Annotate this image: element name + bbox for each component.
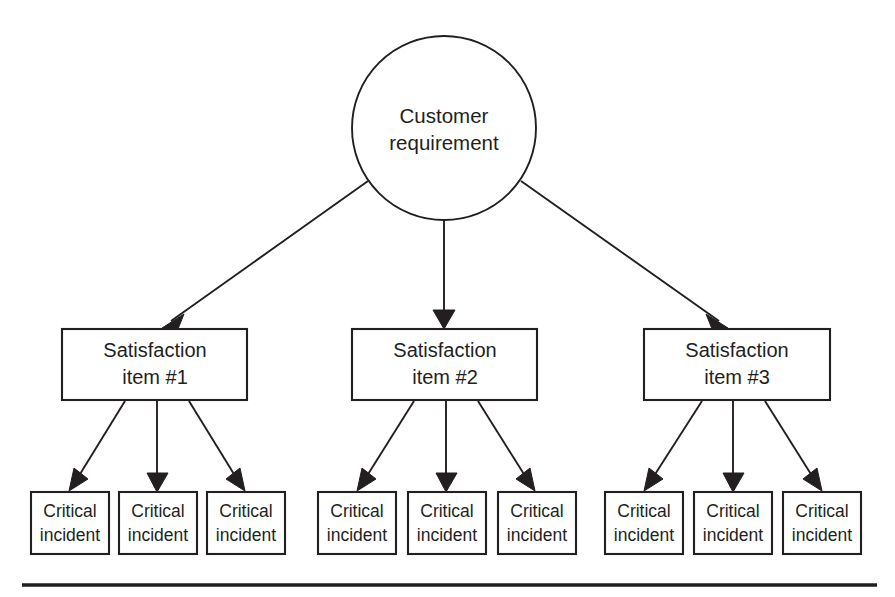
critical-incident-1-3-label-line2: incident (216, 525, 276, 545)
critical-incident-3-1-label-line2: incident (614, 525, 674, 545)
satisfaction-item-1-label-line1: Satisfaction (103, 339, 206, 361)
edge-item-1-to-incident-1-3 (189, 401, 245, 491)
critical-incident-3-1-label-line1: Critical (617, 501, 670, 521)
satisfaction-item-3-label-line2: item #3 (704, 366, 770, 388)
node-critical-incident-3-1[interactable]: Critical incident (605, 492, 683, 554)
edge-root-to-item-2 (433, 221, 455, 329)
edge-line (171, 181, 368, 321)
critical-incident-2-1-label-line1: Critical (330, 501, 383, 521)
arrowhead (226, 468, 245, 491)
arrowhead (644, 468, 663, 491)
critical-incident-3-2-label-line2: incident (703, 525, 763, 545)
diagram-root: Customer requirement Satisfaction item #… (0, 0, 895, 597)
edge-line (478, 401, 527, 479)
edge-item-1-to-incident-1-2 (147, 401, 168, 492)
critical-incident-1-3-label-line1: Critical (219, 501, 272, 521)
arrowhead (723, 473, 744, 492)
critical-incident-3-2-label-line1: Critical (706, 501, 759, 521)
satisfaction-item-1-label-line2: item #1 (122, 366, 188, 388)
edge-line (189, 401, 237, 479)
arrowhead (69, 468, 88, 491)
node-customer-requirement[interactable]: Customer requirement (352, 36, 536, 220)
node-critical-incident-2-2[interactable]: Critical incident (408, 492, 486, 554)
edge-item-2-to-incident-2-2 (436, 401, 457, 492)
edge-item-3-to-incident-3-1 (644, 401, 702, 491)
node-satisfaction-item-3[interactable]: Satisfaction item #3 (644, 329, 830, 400)
critical-incident-2-3-label-line1: Critical (510, 501, 563, 521)
satisfaction-item-3-label-line1: Satisfaction (685, 339, 788, 361)
node-critical-incident-1-3[interactable]: Critical incident (207, 492, 285, 554)
arrowhead (803, 468, 822, 491)
satisfaction-item-2-label-line1: Satisfaction (393, 339, 496, 361)
node-critical-incident-1-2[interactable]: Critical incident (119, 492, 197, 554)
edge-line (365, 401, 414, 479)
satisfaction-item-2-label-line2: item #2 (412, 366, 478, 388)
critical-incident-2-2-label-line2: incident (417, 525, 477, 545)
node-critical-incident-2-1[interactable]: Critical incident (318, 492, 396, 554)
critical-incident-2-3-label-line2: incident (507, 525, 567, 545)
critical-incident-2-2-label-line1: Critical (420, 501, 473, 521)
node-satisfaction-item-1[interactable]: Satisfaction item #1 (62, 329, 247, 400)
node-critical-incident-2-3[interactable]: Critical incident (498, 492, 576, 554)
edge-group-item-1 (69, 401, 245, 492)
hierarchy-diagram: Customer requirement Satisfaction item #… (0, 0, 895, 597)
edge-item-2-to-incident-2-1 (357, 401, 414, 491)
node-critical-incident-3-3[interactable]: Critical incident (783, 492, 861, 554)
edge-group-item-2 (357, 401, 535, 492)
edge-root-to-item-3 (521, 181, 728, 334)
arrowhead (147, 473, 168, 492)
arrowhead (433, 310, 455, 329)
customer-requirement-label-line1: Customer (400, 104, 489, 127)
edge-item-3-to-incident-3-3 (765, 401, 822, 491)
edge-item-2-to-incident-2-3 (478, 401, 535, 491)
edge-line (77, 401, 125, 479)
critical-incident-1-2-label-line1: Critical (131, 501, 184, 521)
critical-incident-1-1-label-line1: Critical (43, 501, 96, 521)
customer-requirement-circle (352, 36, 536, 220)
critical-incident-3-3-label-line1: Critical (795, 501, 848, 521)
node-critical-incident-3-2[interactable]: Critical incident (694, 492, 772, 554)
node-satisfaction-item-2[interactable]: Satisfaction item #2 (352, 329, 537, 400)
node-critical-incident-1-1[interactable]: Critical incident (31, 492, 109, 554)
customer-requirement-label-line2: requirement (389, 131, 499, 154)
edge-item-3-to-incident-3-2 (723, 401, 744, 492)
edge-root-to-item-1 (162, 181, 368, 334)
edge-group-item-3 (644, 401, 822, 492)
critical-incident-1-1-label-line2: incident (40, 525, 100, 545)
critical-incident-2-1-label-line2: incident (327, 525, 387, 545)
critical-incident-1-2-label-line2: incident (128, 525, 188, 545)
edge-line (521, 181, 719, 321)
arrowhead (516, 468, 535, 491)
arrowhead (436, 473, 457, 492)
critical-incident-3-3-label-line2: incident (792, 525, 852, 545)
edge-line (652, 401, 702, 479)
edge-line (765, 401, 814, 479)
arrowhead (357, 468, 376, 491)
edge-item-1-to-incident-1-1 (69, 401, 125, 491)
